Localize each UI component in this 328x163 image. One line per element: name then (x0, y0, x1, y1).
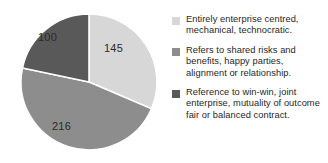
legend-item-entirely-enterprise-centred[interactable]: Entirely enterprise centred, mechanical,… (172, 14, 324, 37)
chart-legend: Entirely enterprise centred, mechanical,… (172, 14, 324, 129)
legend-label-3: Reference to win-win, joint enterprise, … (186, 87, 324, 121)
legend-label-2: Refers to shared risks and benefits, hap… (186, 45, 324, 79)
legend-swatch-icon-3 (172, 90, 180, 98)
slice-value-label-3: 100 (38, 31, 57, 43)
slice-value-label-1: 145 (104, 42, 123, 54)
legend-swatch-icon-2 (172, 48, 180, 56)
legend-label-1: Entirely enterprise centred, mechanical,… (186, 14, 324, 37)
pie-chart-svg (0, 0, 170, 163)
pie-chart-figure: 145 216 100 Entirely enterprise centred,… (0, 0, 328, 163)
slice-value-label-2: 216 (52, 120, 71, 132)
legend-item-shared-risks-and-benefits[interactable]: Refers to shared risks and benefits, hap… (172, 45, 324, 79)
pie-chart-plot-area: 145 216 100 (0, 0, 170, 163)
legend-item-win-win-joint-enterprise[interactable]: Reference to win-win, joint enterprise, … (172, 87, 324, 121)
legend-swatch-icon-1 (172, 17, 180, 25)
